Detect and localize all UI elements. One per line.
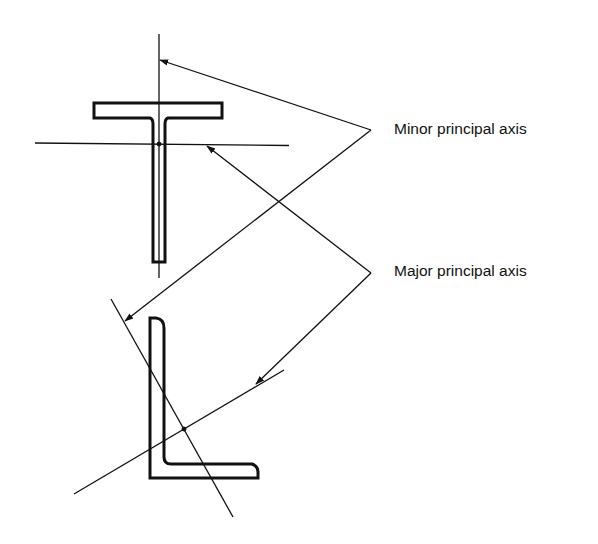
major-leader-to-angle: [256, 273, 371, 384]
minor-axis-label: Minor principal axis: [394, 120, 527, 138]
angle-major-axis: [74, 370, 284, 494]
t-major-axis: [35, 143, 289, 146]
t-section: [35, 34, 289, 278]
major-leader-to-t: [207, 146, 371, 273]
minor-leader-to-angle: [125, 130, 371, 321]
major-axis-label: Major principal axis: [394, 262, 527, 280]
leader-lines: [125, 60, 371, 384]
angle-centroid: [182, 427, 186, 431]
angle-minor-axis: [111, 299, 233, 517]
t-section-outline: [94, 103, 222, 262]
t-centroid: [157, 142, 161, 146]
angle-section: [74, 299, 284, 517]
